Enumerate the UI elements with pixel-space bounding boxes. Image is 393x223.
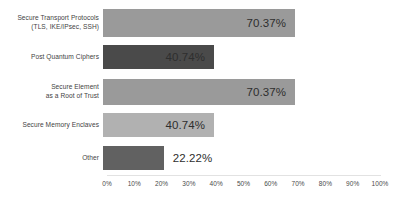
bar-value-label: 22.22% (164, 152, 213, 164)
category-label: Secure Element as a Root of Trust (0, 83, 103, 100)
bar-value-label: 40.74% (166, 119, 215, 131)
bar-track: 70.37% (103, 9, 393, 37)
bar-track: 40.74% (103, 45, 393, 69)
bar[interactable]: 40.74% (103, 113, 214, 137)
x-tick-label: 20% (155, 180, 168, 187)
bar-row: Secure Transport Protocols (TLS, IKE/IPs… (0, 9, 393, 37)
bar[interactable]: 70.37% (103, 79, 295, 105)
bar-track: 70.37% (103, 79, 393, 105)
x-tick-label: 100% (372, 180, 389, 187)
bar[interactable]: 70.37% (103, 9, 295, 37)
bar-row: Secure Element as a Root of Trust70.37% (0, 79, 393, 105)
x-tick-label: 0% (102, 180, 112, 187)
bar[interactable]: 40.74% (103, 45, 214, 69)
bar-value-label: 40.74% (166, 51, 215, 63)
bar-row: Other22.22% (0, 146, 393, 170)
bar-chart: Secure Transport Protocols (TLS, IKE/IPs… (0, 0, 393, 223)
bar-track: 40.74% (103, 113, 393, 137)
x-tick-label: 80% (319, 180, 332, 187)
plot-area: Secure Transport Protocols (TLS, IKE/IPs… (0, 0, 393, 175)
bar[interactable] (103, 146, 164, 170)
bar-track: 22.22% (103, 146, 393, 170)
x-tick-label: 40% (210, 180, 223, 187)
category-label: Secure Memory Enclaves (0, 121, 103, 130)
bar-value-label: 70.37% (246, 86, 295, 98)
x-tick-label: 90% (346, 180, 359, 187)
category-label: Secure Transport Protocols (TLS, IKE/IPs… (0, 14, 103, 31)
x-tick-label: 50% (237, 180, 250, 187)
category-label: Post Quantum Ciphers (0, 53, 103, 62)
x-tick-label: 10% (128, 180, 141, 187)
x-tick-label: 30% (182, 180, 195, 187)
bar-value-label: 70.37% (246, 17, 295, 29)
x-axis-tick-labels: 0%10%20%30%40%50%60%70%80%90%100% (0, 180, 393, 194)
x-tick-label: 60% (264, 180, 277, 187)
category-label: Other (0, 154, 103, 163)
bar-row: Secure Memory Enclaves40.74% (0, 113, 393, 137)
x-tick-label: 70% (291, 180, 304, 187)
bar-row: Post Quantum Ciphers40.74% (0, 45, 393, 69)
x-axis-line (107, 175, 381, 176)
